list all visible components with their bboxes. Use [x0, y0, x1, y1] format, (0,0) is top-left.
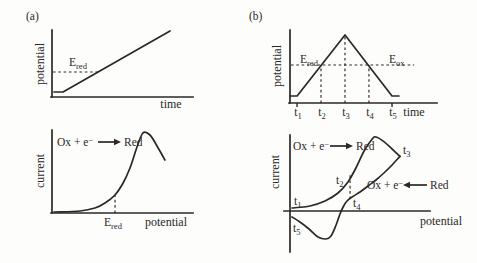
chart-b-cyclic-voltammogram: current potential Ox + e− Red Ox + e− Re… [268, 135, 463, 252]
arrow-left-icon [403, 182, 427, 189]
a-top-e-red-label: Ered [69, 56, 88, 71]
b-top-tick-label-t2: t2 [318, 106, 325, 121]
arrow-right-icon [330, 143, 353, 150]
b-top-tick-label-t5: t5 [389, 106, 396, 121]
b-top-tick-label-t3: t3 [342, 106, 349, 121]
a-bottom-y-axis-label: current [33, 153, 47, 188]
voltammetry-figure: (a) (b) potential time Ered current pote… [0, 0, 477, 263]
chart-a-current-vs-potential: current potential Ered Ox + e− Red [33, 130, 193, 231]
b-bottom-point-label-t2: t2 [336, 174, 343, 189]
chart-a-potential-vs-time: potential time Ered [33, 30, 193, 111]
b-bottom-reverse-reaction-reactants: Ox + e− [367, 178, 403, 191]
a-top-y-axis-label: potential [33, 42, 47, 85]
a-bottom-e-red-label: Ered [104, 216, 123, 231]
b-top-tick-label-t4: t4 [366, 106, 374, 121]
a-top-x-axis-label: time [160, 97, 181, 111]
chart-b-potential-vs-time: potential time Ered Eox t1 t2 t3 t4 t5 [270, 30, 437, 121]
a-bottom-x-axis-label: potential [145, 215, 188, 229]
panel-b-label: (b) [249, 10, 263, 23]
b-bottom-x-axis-label: potential [420, 214, 463, 228]
figure-svg: (a) (b) potential time Ered current pote… [0, 0, 477, 263]
b-top-x-axis-label: time [403, 105, 424, 119]
reverse-scan-current-curve [292, 156, 400, 239]
b-bottom-point-label-t3: t3 [403, 144, 410, 159]
b-bottom-point-label-t5: t5 [293, 222, 300, 237]
a-bottom-reaction-reactants: Ox + e− [57, 135, 93, 148]
b-bottom-y-axis-label: current [268, 154, 282, 189]
b-bottom-point-label-t4: t4 [353, 197, 361, 212]
arrow-right-icon [98, 139, 121, 146]
panel-a-label: (a) [26, 10, 39, 23]
b-top-y-axis-label: potential [270, 44, 284, 87]
b-top-tick-label-t1: t1 [294, 106, 301, 121]
b-bottom-reverse-reaction-product: Red [430, 179, 449, 191]
b-bottom-forward-reaction-reactants: Ox + e− [293, 139, 329, 152]
